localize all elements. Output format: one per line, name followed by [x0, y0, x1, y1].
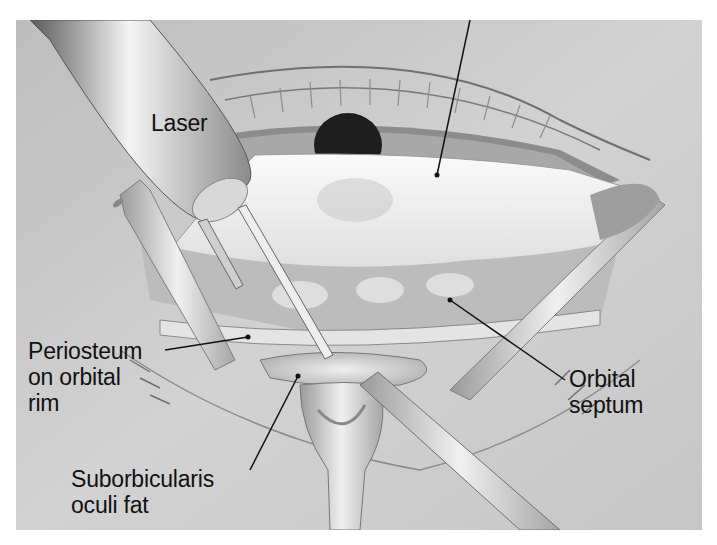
eye-surgery-drawing [16, 20, 702, 530]
surgical-illustration [16, 20, 702, 530]
label-periosteum-on-orbital-rim: Periosteum on orbital rim [28, 338, 142, 416]
label-orbital-septum: Orbital septum [569, 366, 643, 418]
label-suborbicularis-oculi-fat: Suborbicularis oculi fat [71, 466, 214, 518]
label-laser: Laser [151, 110, 208, 136]
